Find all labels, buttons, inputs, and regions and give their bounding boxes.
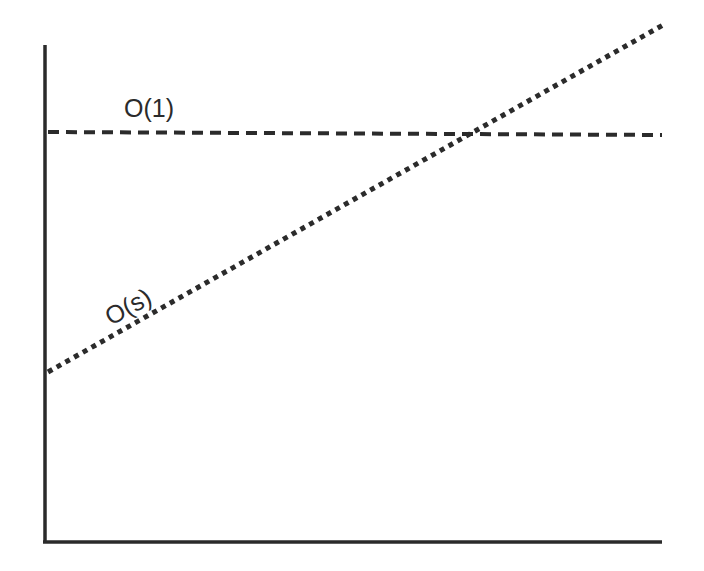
complexity-diagram: O(1) O(s) xyxy=(0,0,704,571)
constant-label: O(1) xyxy=(124,94,174,122)
linear-label: O(s) xyxy=(100,282,156,330)
constant-line xyxy=(48,132,662,135)
linear-line xyxy=(48,25,663,372)
